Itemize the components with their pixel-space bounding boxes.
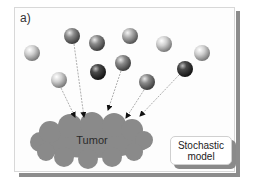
arrow-4: [126, 90, 144, 118]
model-label-line2: model: [187, 151, 214, 162]
cells: [24, 28, 210, 90]
cell-sphere: [122, 28, 138, 44]
cell-sphere: [64, 28, 80, 44]
arrows: [61, 44, 179, 118]
arrow-1: [61, 88, 75, 117]
arrow-2: [74, 44, 84, 117]
cell-sphere: [115, 55, 131, 71]
tumor-label: Tumor: [62, 134, 122, 146]
cell-sphere: [156, 36, 172, 52]
cell-sphere: [90, 64, 106, 80]
cell-sphere: [24, 45, 40, 61]
cell-sphere: [89, 35, 105, 51]
diagram-stochastic-model: a): [0, 0, 254, 184]
cell-sphere: [51, 72, 67, 88]
model-label-line1: Stochastic: [178, 140, 224, 151]
cell-sphere: [177, 61, 193, 77]
cell-sphere: [194, 45, 210, 61]
arrow-3: [108, 71, 121, 110]
model-label-box: Stochastic model: [170, 136, 232, 165]
cell-sphere: [139, 74, 155, 90]
